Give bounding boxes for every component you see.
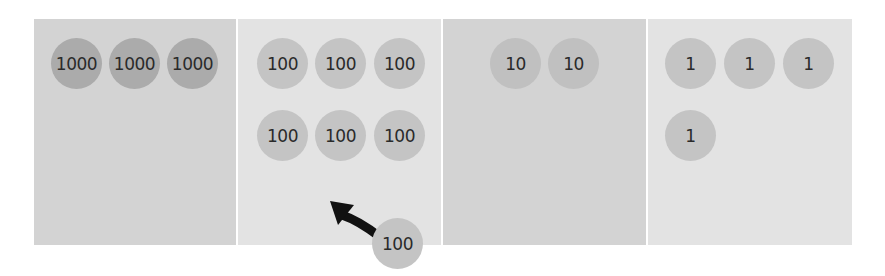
circle-1: 1 (724, 38, 775, 89)
circle-1: 1 (665, 38, 716, 89)
circle-100: 100 (315, 38, 366, 89)
circle-100: 100 (374, 110, 425, 161)
circle-100: 100 (374, 38, 425, 89)
circle-1000: 1000 (51, 38, 102, 89)
place-value-board: 1000 1000 1000 100 100 100 100 100 100 1… (34, 19, 852, 245)
column-thousands: 1000 1000 1000 (34, 19, 236, 245)
circle-100: 100 (315, 110, 366, 161)
moving-circle-100: 100 (372, 218, 423, 269)
circle-10: 10 (490, 38, 541, 89)
circle-100: 100 (257, 38, 308, 89)
circle-100: 100 (257, 110, 308, 161)
circle-10: 10 (548, 38, 599, 89)
column-tens: 10 10 (443, 19, 646, 245)
circle-1: 1 (665, 110, 716, 161)
circle-1: 1 (783, 38, 834, 89)
circle-1000: 1000 (109, 38, 160, 89)
column-ones: 1 1 1 1 (648, 19, 852, 245)
circle-1000: 1000 (167, 38, 218, 89)
